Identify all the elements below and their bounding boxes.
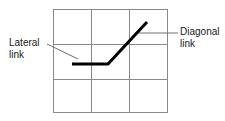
lateral-link-label: Lateral link	[9, 37, 40, 61]
diagonal-link-label-line2: link	[180, 38, 219, 50]
link-path	[72, 22, 147, 64]
diagram-canvas: Lateral link Diagonal link	[0, 0, 225, 121]
lateral-link-label-line2: link	[9, 49, 40, 61]
lateral-link-leader-line	[47, 44, 78, 59]
lateral-link-label-line1: Lateral	[9, 37, 40, 49]
diagonal-link-label: Diagonal link	[180, 26, 219, 50]
diagonal-link-label-line1: Diagonal	[180, 26, 219, 38]
